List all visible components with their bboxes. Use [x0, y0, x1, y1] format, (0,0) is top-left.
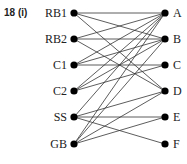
edge-GB-B: [74, 39, 165, 144]
node-label-D: D: [173, 84, 182, 98]
node-D: [161, 87, 168, 94]
node-label-E: E: [173, 110, 180, 124]
node-C2: [70, 87, 77, 94]
node-label-RB1: RB1: [45, 6, 67, 20]
node-label-RB2: RB2: [45, 32, 67, 46]
edge-GB-A: [74, 13, 165, 144]
bipartite-graph: 18 (i) RB1RB2C1C2SSGBABCDEF: [0, 0, 187, 164]
edges: [74, 13, 165, 144]
node-B: [161, 35, 168, 42]
node-E: [161, 113, 168, 120]
node-GB: [70, 140, 77, 147]
edge-SS-D: [74, 91, 165, 117]
node-label-C2: C2: [53, 84, 67, 98]
node-label-C1: C1: [53, 58, 67, 72]
node-label-C: C: [173, 58, 181, 72]
edge-GB-D: [74, 91, 165, 144]
node-label-A: A: [173, 6, 182, 20]
node-RB2: [70, 35, 77, 42]
node-label-F: F: [173, 137, 180, 151]
node-C: [161, 61, 168, 68]
node-F: [161, 140, 168, 147]
node-RB1: [70, 9, 77, 16]
figure-label: 18 (i): [4, 7, 27, 18]
node-A: [161, 9, 168, 16]
node-label-GB: GB: [50, 137, 67, 151]
node-label-SS: SS: [54, 110, 67, 124]
node-C1: [70, 61, 77, 68]
node-SS: [70, 113, 77, 120]
node-label-B: B: [173, 32, 181, 46]
